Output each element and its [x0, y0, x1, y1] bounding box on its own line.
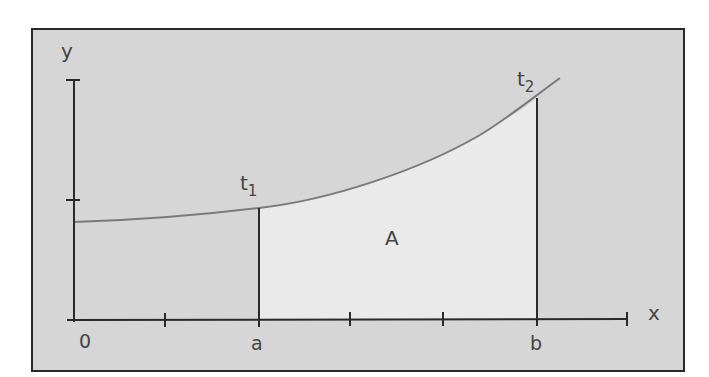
point-label-t1: t1: [240, 171, 257, 200]
bound-label-b: b: [530, 332, 542, 354]
area-region: [259, 98, 537, 320]
bound-label-a: a: [251, 332, 263, 354]
area-label: A: [385, 226, 399, 250]
origin-label: 0: [79, 330, 91, 352]
area-diagram: y x 0 a b A t1 t2: [0, 0, 709, 377]
x-axis: [67, 319, 627, 320]
point-label-t2: t2: [517, 67, 534, 96]
y-axis-label: y: [61, 39, 73, 63]
x-axis-label: x: [648, 301, 660, 325]
